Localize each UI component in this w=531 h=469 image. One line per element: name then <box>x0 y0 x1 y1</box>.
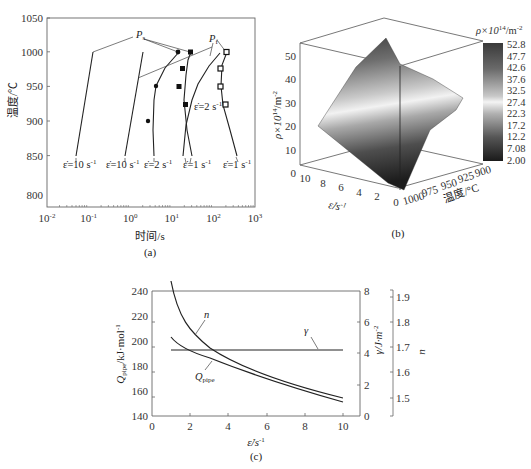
b-colorbar <box>483 43 503 161</box>
c-ylabel: Qpipe/kJ·mol-1 <box>114 324 128 384</box>
ps-label: Ps <box>135 29 145 42</box>
ps-rate2-curve <box>153 52 179 156</box>
svg-text:1.9: 1.9 <box>396 291 410 303</box>
svg-text:10: 10 <box>285 144 297 156</box>
panel-a: 1050 1000 950 900 850 800 10-2 10-1 100 … <box>6 12 263 259</box>
svg-text:ε̇=1 s-1: ε̇=1 s-1 <box>183 158 212 170</box>
svg-text:180: 180 <box>132 360 149 372</box>
b-colorbar-ticks: 52.8 47.7 42.6 37.6 32.5 27.4 22.3 17.2 … <box>507 39 526 166</box>
c-ticks <box>152 322 360 416</box>
svg-text:2: 2 <box>364 379 370 391</box>
svg-text:4: 4 <box>364 347 370 359</box>
svg-text:1.8: 1.8 <box>396 316 410 328</box>
svg-text:40: 40 <box>285 73 297 85</box>
svg-text:8: 8 <box>364 285 370 297</box>
svg-text:4: 4 <box>356 186 362 198</box>
a-ytick-900: 900 <box>27 115 44 127</box>
svg-text:160: 160 <box>132 385 149 397</box>
b-zticks: 50 40 30 20 10 0 <box>285 50 297 179</box>
svg-text:4: 4 <box>225 420 231 432</box>
svg-text:200: 200 <box>132 335 149 347</box>
panel-a-leaders <box>76 37 238 163</box>
a-ylabel: 温度/℃ <box>6 82 19 118</box>
svg-text:1.5: 1.5 <box>396 392 410 404</box>
svg-text:ε̇=2 s-1: ε̇=2 s-1 <box>144 158 173 170</box>
figure-canvas: 1050 1000 950 900 850 800 10-2 10-1 100 … <box>0 0 531 469</box>
b-colorbar-title: ρ×1014/m-2 <box>475 24 523 36</box>
svg-text:2: 2 <box>187 420 193 432</box>
svg-text:22.3: 22.3 <box>507 108 525 119</box>
svg-text:103: 103 <box>248 212 263 224</box>
svg-text:17.2: 17.2 <box>507 120 525 131</box>
c-qpipe-label: Qpipe <box>195 371 215 384</box>
svg-text:220: 220 <box>132 310 149 322</box>
svg-text:ε̇=1 s-1: ε̇=1 s-1 <box>223 158 252 170</box>
a-ytick-1000: 1000 <box>21 46 44 58</box>
svg-text:10: 10 <box>338 420 350 432</box>
c-n-label: n <box>204 309 209 320</box>
svg-text:42.6: 42.6 <box>507 62 525 73</box>
c-right1-ticks: 8 6 4 2 0 <box>364 285 370 422</box>
ps-rate10-line <box>76 52 93 156</box>
svg-text:52.8: 52.8 <box>507 39 525 50</box>
svg-text:30: 30 <box>285 97 297 109</box>
c-frame <box>152 291 360 416</box>
panel-b: 50 40 30 20 10 0 ρ×1014/m-2 10 8 6 4 2 0… <box>271 18 526 240</box>
svg-text:6: 6 <box>364 316 370 328</box>
svg-text:47.7: 47.7 <box>507 51 525 62</box>
panel-a-frame <box>47 18 255 207</box>
svg-text:10-2: 10-2 <box>39 212 56 224</box>
c-xlabel: ε̇/s-1 <box>247 436 265 448</box>
svg-text:10: 10 <box>300 172 312 184</box>
c-curves <box>171 281 343 402</box>
svg-text:ε̇=10 s-1: ε̇=10 s-1 <box>63 158 97 170</box>
c-gamma-label: γ <box>304 325 309 336</box>
svg-text:6: 6 <box>264 420 270 432</box>
b-caption: (b) <box>392 227 405 240</box>
panel-c: 240 220 200 180 160 140 0 2 4 6 8 10 8 6… <box>114 281 427 463</box>
b-surface <box>318 38 463 190</box>
b-zlabel: ρ×1014/m-2 <box>271 90 283 140</box>
svg-text:1.6: 1.6 <box>396 366 410 378</box>
pf-rate10-line <box>125 52 143 156</box>
svg-text:37.6: 37.6 <box>507 74 525 85</box>
svg-text:102: 102 <box>206 212 221 224</box>
svg-text:0: 0 <box>393 196 399 208</box>
inner-rate-label: ε̇=2 s-1 <box>194 100 223 112</box>
panel-a-xticks: 10-2 10-1 100 101 102 103 <box>39 212 263 224</box>
svg-text:20: 20 <box>285 120 297 132</box>
svg-text:2: 2 <box>374 190 380 202</box>
svg-text:12.2: 12.2 <box>507 131 525 142</box>
c-yticks: 240 220 200 180 160 140 <box>132 285 149 422</box>
c-right2-label: n <box>415 349 427 355</box>
svg-text:140: 140 <box>132 410 149 422</box>
svg-text:2.00: 2.00 <box>507 155 525 166</box>
svg-text:32.5: 32.5 <box>507 85 525 96</box>
svg-text:50: 50 <box>285 50 297 62</box>
svg-text:8: 8 <box>302 420 308 432</box>
a-ytick-850: 850 <box>27 150 44 162</box>
a-xlabel: 时间/s <box>135 230 164 242</box>
c-qpipe-curve <box>171 337 343 402</box>
svg-text:8: 8 <box>320 177 326 189</box>
svg-text:ε̇=10 s-1: ε̇=10 s-1 <box>106 158 140 170</box>
c-caption: (c) <box>250 450 263 463</box>
svg-text:0: 0 <box>364 410 370 422</box>
c-right2-ticks: 1.9 1.8 1.7 1.6 1.5 <box>396 291 410 404</box>
svg-text:1.7: 1.7 <box>396 341 410 353</box>
svg-text:6: 6 <box>338 181 344 193</box>
svg-text:7.08: 7.08 <box>507 143 525 154</box>
svg-text:100: 100 <box>123 212 138 224</box>
c-xticks: 0 2 4 6 8 10 <box>149 420 349 432</box>
a-caption: (a) <box>144 246 157 259</box>
svg-text:0: 0 <box>291 167 297 179</box>
pf-label: Pf <box>208 33 218 46</box>
svg-text:900: 900 <box>473 163 493 179</box>
b-xlabel: ε̇/s-1 <box>328 198 348 213</box>
svg-text:975: 975 <box>420 183 440 199</box>
svg-text:101: 101 <box>165 212 180 224</box>
svg-text:10-1: 10-1 <box>80 212 97 224</box>
svg-text:240: 240 <box>132 285 149 297</box>
c-n-axis <box>390 290 393 416</box>
a-ytick-800: 800 <box>27 189 44 201</box>
